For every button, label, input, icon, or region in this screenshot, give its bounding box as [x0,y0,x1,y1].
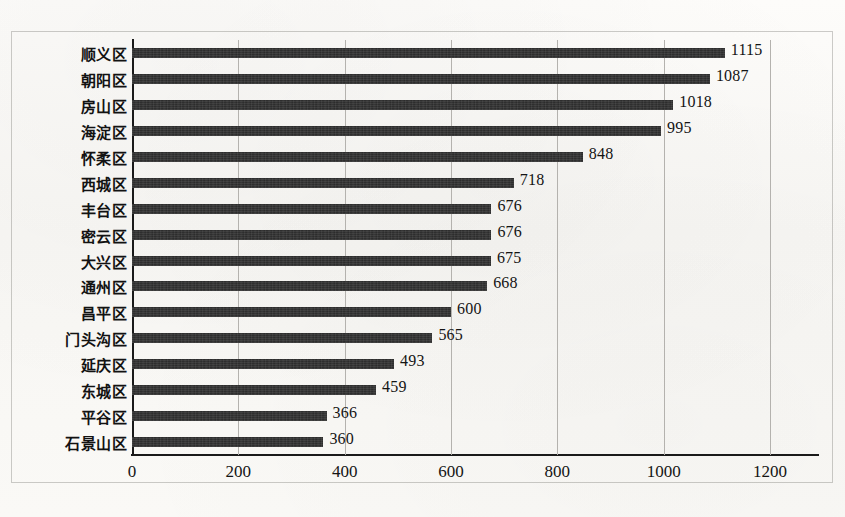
bar-row: 1087 [132,66,770,92]
bar [132,178,514,188]
bar-row: 360 [132,429,770,455]
category-label: 东城区 [5,380,127,401]
bar-row: 676 [132,222,770,248]
bar-row: 366 [132,403,770,429]
bar-row: 600 [132,299,770,325]
bar-row: 668 [132,273,770,299]
bar-row: 493 [132,351,770,377]
bar-value-label: 493 [400,352,425,370]
bar-value-label: 366 [333,404,358,422]
bar [132,74,710,84]
x-tick-label: 1200 [753,462,787,482]
bar [132,281,487,291]
category-label: 朝阳区 [5,69,127,90]
bar-row: 1115 [132,40,770,66]
bar-value-label: 459 [382,378,407,396]
x-tick-label: 600 [438,462,464,482]
category-label: 门头沟区 [5,328,127,349]
bar-value-label: 360 [329,430,354,448]
bar-row: 1018 [132,92,770,118]
bar [132,126,661,136]
gridline-1200 [770,40,771,455]
x-tick-label: 1000 [647,462,681,482]
bar-value-label: 718 [520,171,545,189]
bar-value-label: 995 [667,119,692,137]
bar [132,230,491,240]
category-label: 平谷区 [5,406,127,427]
category-axis-labels: 顺义区朝阳区房山区海淀区怀柔区西城区丰台区密云区大兴区通州区昌平区门头沟区延庆区… [0,40,127,455]
category-label: 石景山区 [5,432,127,453]
bar [132,48,725,58]
bar-chart: 顺义区朝阳区房山区海淀区怀柔区西城区丰台区密云区大兴区通州区昌平区门头沟区延庆区… [0,0,845,517]
bar [132,437,323,447]
bar-row: 565 [132,325,770,351]
category-label: 怀柔区 [5,147,127,168]
bar-row: 676 [132,196,770,222]
category-label: 西城区 [5,173,127,194]
bar [132,359,394,369]
bar [132,152,583,162]
bar-row: 848 [132,144,770,170]
x-tick-label: 400 [332,462,358,482]
category-label: 顺义区 [5,43,127,64]
category-label: 房山区 [5,95,127,116]
bar [132,204,491,214]
bar [132,256,491,266]
category-label: 密云区 [5,225,127,246]
bar-row: 459 [132,377,770,403]
bar-value-label: 1115 [731,41,763,59]
bar [132,411,327,421]
category-label: 丰台区 [5,199,127,220]
bar [132,385,376,395]
bar-value-label: 565 [438,326,463,344]
x-tick-label: 200 [226,462,252,482]
x-tick-label: 0 [128,462,137,482]
bar-row: 675 [132,248,770,274]
bar-value-label: 1087 [716,67,749,85]
bar [132,333,432,343]
bar [132,307,451,317]
bar-value-label: 1018 [679,93,712,111]
x-tick-label: 800 [545,462,571,482]
bar-value-label: 676 [497,197,522,215]
plot-area: 1115108710189958487186766766756686005654… [132,40,770,455]
bar-value-label: 675 [497,249,522,267]
bar-value-label: 668 [493,274,518,292]
category-label: 通州区 [5,276,127,297]
bar-row: 995 [132,118,770,144]
bar-value-label: 600 [457,300,482,318]
bar [132,100,673,110]
category-label: 延庆区 [5,354,127,375]
category-label: 海淀区 [5,121,127,142]
bar-row: 718 [132,170,770,196]
category-label: 昌平区 [5,302,127,323]
bar-value-label: 848 [589,145,614,163]
category-label: 大兴区 [5,251,127,272]
bar-value-label: 676 [497,223,522,241]
